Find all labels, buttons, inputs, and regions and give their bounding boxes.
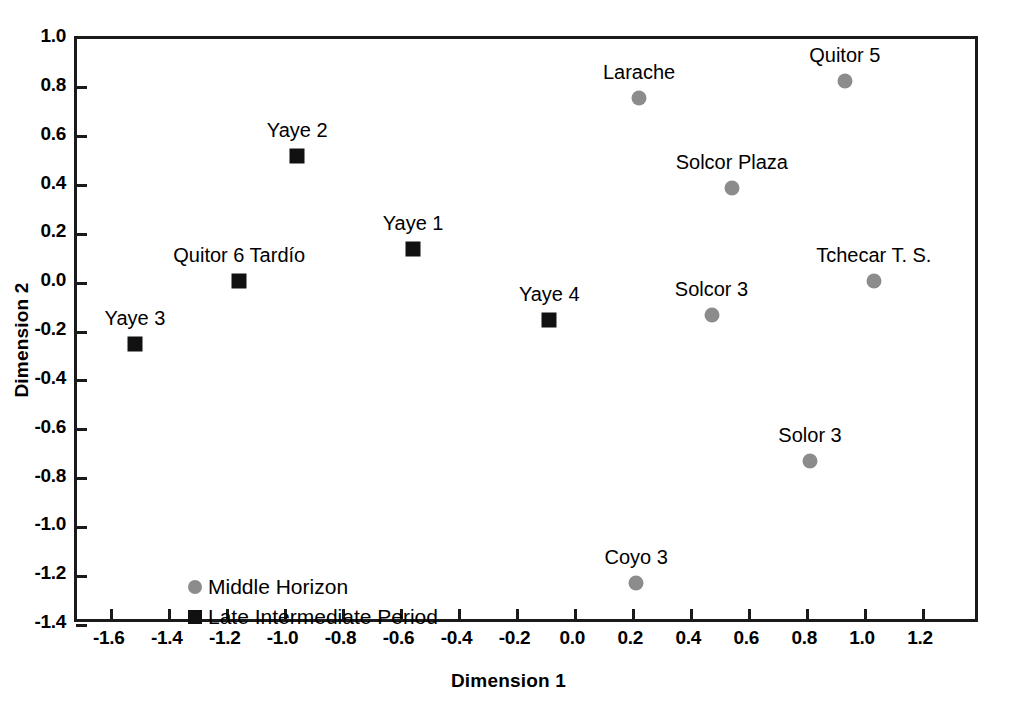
data-point-label: Solcor Plaza [676, 151, 788, 174]
x-tick-label: 1.2 [907, 627, 933, 649]
x-tick-label: 0.4 [675, 627, 701, 649]
x-tick-label: -1.6 [93, 627, 125, 649]
data-point-label: Coyo 3 [605, 546, 668, 569]
data-point-marker[interactable] [632, 90, 647, 105]
data-point-marker[interactable] [127, 337, 142, 352]
y-tick-label: -0.6 [66, 416, 98, 438]
y-tick-label: -0.4 [66, 367, 98, 389]
x-tick-label: 0.2 [618, 627, 644, 649]
data-point-marker[interactable] [866, 273, 881, 288]
x-tick [864, 609, 867, 620]
y-tick-label: 0.0 [66, 269, 92, 291]
data-point-marker[interactable] [290, 149, 305, 164]
data-point-label: Solcor 3 [675, 278, 748, 301]
y-tick-label: 0.2 [66, 220, 92, 242]
x-tick [748, 609, 751, 620]
data-point-label: Yaye 4 [519, 283, 580, 306]
x-tick [574, 609, 577, 620]
x-tick-label: -1.2 [209, 627, 241, 649]
x-tick [458, 609, 461, 620]
data-point-label: Yaye 1 [383, 212, 444, 235]
data-point-label: Tchecar T. S. [816, 244, 931, 267]
y-axis-title: Dimension 2 [11, 270, 33, 410]
y-tick-label: 0.8 [66, 74, 92, 96]
x-tick-label: -1.4 [151, 627, 183, 649]
plot-area: LaracheQuitor 5Solcor PlazaTchecar T. S.… [74, 36, 978, 622]
data-point-marker[interactable] [629, 576, 644, 591]
x-tick [690, 609, 693, 620]
x-tick-label: -0.4 [441, 627, 473, 649]
data-point-label: Yaye 3 [105, 307, 166, 330]
y-tick-label: -1.0 [66, 513, 98, 535]
legend-label: Late Intermediate Period [208, 605, 438, 629]
data-point-marker[interactable] [837, 73, 852, 88]
data-point-label: Solor 3 [778, 424, 841, 447]
x-tick [516, 609, 519, 620]
x-axis-title: Dimension 1 [0, 670, 1017, 692]
x-tick [110, 609, 113, 620]
y-tick-label: 0.4 [66, 172, 92, 194]
x-tick [806, 609, 809, 620]
data-point-marker[interactable] [803, 454, 818, 469]
x-tick [168, 609, 171, 620]
y-tick-label: -1.4 [66, 611, 98, 633]
data-point-marker[interactable] [406, 241, 421, 256]
x-tick [922, 609, 925, 620]
x-tick-label: -1.0 [267, 627, 299, 649]
legend-circle-icon [182, 580, 208, 594]
x-tick-label: 1.0 [849, 627, 875, 649]
data-point-marker[interactable] [232, 273, 247, 288]
data-point-label: Quitor 6 Tardío [173, 244, 305, 267]
x-tick-label: 0.6 [733, 627, 759, 649]
y-tick-label: -0.8 [66, 465, 98, 487]
chart-legend: Middle HorizonLate Intermediate Period [182, 572, 438, 632]
x-tick [632, 609, 635, 620]
x-tick-label: -0.2 [499, 627, 531, 649]
y-tick-label: -0.2 [66, 318, 98, 340]
data-point-marker[interactable] [542, 312, 557, 327]
x-tick-label: -0.6 [383, 627, 415, 649]
data-point-label: Yaye 2 [267, 119, 328, 142]
x-tick-label: 0.0 [560, 627, 586, 649]
data-point-label: Larache [603, 61, 675, 84]
scatter-plot-figure: LaracheQuitor 5Solcor PlazaTchecar T. S.… [0, 0, 1017, 726]
legend-label: Middle Horizon [208, 575, 348, 599]
data-point-label: Quitor 5 [809, 44, 880, 67]
y-tick-label: 0.6 [66, 123, 92, 145]
x-tick-label: 0.8 [791, 627, 817, 649]
data-point-marker[interactable] [704, 307, 719, 322]
x-tick-label: -0.8 [325, 627, 357, 649]
y-tick-label: 1.0 [66, 25, 92, 47]
data-point-marker[interactable] [724, 180, 739, 195]
legend-item[interactable]: Middle Horizon [182, 572, 438, 602]
y-tick-label: -1.2 [66, 562, 98, 584]
legend-square-icon [182, 610, 208, 624]
